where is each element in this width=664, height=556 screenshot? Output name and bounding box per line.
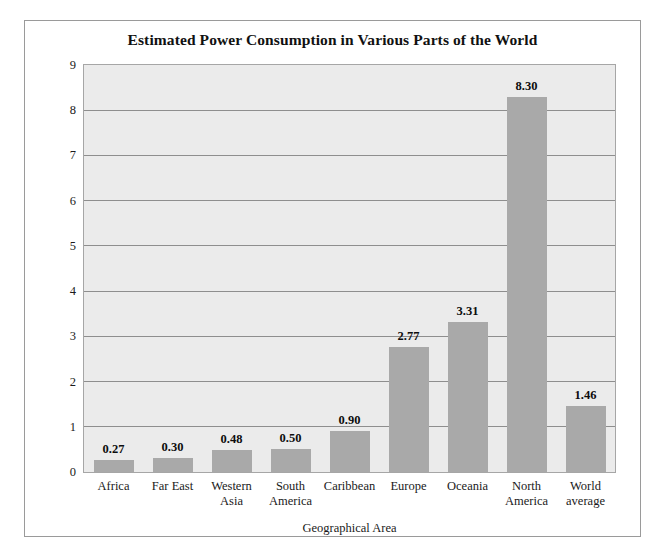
bar-value-label: 0.50 (280, 431, 302, 446)
x-axis-title: Geographical Area (83, 521, 616, 536)
bar-value-label: 0.48 (221, 432, 243, 447)
y-axis-tick-label: 0 (70, 465, 76, 480)
bar-value-label: 1.46 (575, 388, 597, 403)
x-axis-tick-label: Europe (390, 479, 426, 494)
bar-value-label: 8.30 (516, 79, 538, 94)
x-axis-tick-label: SouthAmerica (269, 479, 312, 509)
chart-title: Estimated Power Consumption in Various P… (25, 31, 640, 49)
x-axis-tick-label: Africa (98, 479, 130, 494)
y-axis-tick-label: 5 (70, 238, 76, 253)
y-axis-tick-label: 3 (70, 329, 76, 344)
bar[interactable]: 0.50 (271, 449, 311, 472)
x-axis-tick-label: Worldaverage (566, 479, 605, 509)
bar[interactable]: 8.30 (507, 97, 547, 472)
bar-value-label: 0.30 (162, 440, 184, 455)
y-axis-tick-label: 2 (70, 374, 76, 389)
bar-value-label: 0.90 (339, 413, 361, 428)
figure-frame: Estimated Power Consumption in Various P… (24, 20, 641, 537)
y-axis-tick-label: 7 (70, 148, 76, 163)
x-axis-tick-label: Oceania (447, 479, 488, 494)
bar[interactable]: 0.48 (212, 450, 252, 472)
x-axis-tick-label: WesternAsia (211, 479, 252, 509)
bar-value-label: 0.27 (103, 442, 125, 457)
x-axis-tick-label: Caribbean (324, 479, 375, 494)
bar[interactable]: 2.77 (389, 347, 429, 472)
bar[interactable]: 1.46 (566, 406, 606, 472)
bar[interactable]: 0.90 (330, 431, 370, 472)
plot-area: 01234567890.27Africa0.30Far East0.48West… (83, 64, 616, 473)
bar-value-label: 2.77 (398, 329, 420, 344)
y-axis-tick-label: 1 (70, 419, 76, 434)
y-axis-tick-label: 6 (70, 193, 76, 208)
y-axis-tick-label: 4 (70, 284, 76, 299)
bar[interactable]: 0.30 (153, 458, 193, 472)
y-axis-tick-label: 9 (70, 58, 76, 73)
bar[interactable]: 3.31 (448, 322, 488, 472)
bar[interactable]: 0.27 (94, 460, 134, 472)
x-axis-tick-label: NorthAmerica (505, 479, 548, 509)
x-axis-tick-label: Far East (152, 479, 193, 494)
bar-value-label: 3.31 (457, 304, 479, 319)
y-axis-tick-label: 8 (70, 103, 76, 118)
